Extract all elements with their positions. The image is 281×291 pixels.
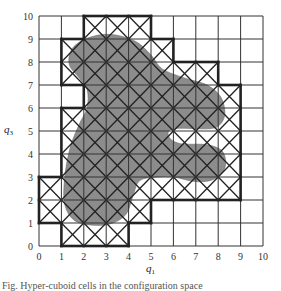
x-tick-label: 5 <box>149 251 154 262</box>
y-axis-label: q3 <box>4 123 14 137</box>
y-tick-label: 10 <box>23 11 33 22</box>
y-tick-label: 9 <box>28 34 33 45</box>
y-tick-label: 4 <box>28 149 33 160</box>
y-tick-label: 5 <box>28 126 33 137</box>
y-tick-label: 8 <box>28 57 33 68</box>
x-tick-label: 2 <box>81 251 86 262</box>
x-axis-ticks: 012345678910 <box>37 251 269 262</box>
y-tick-label: 3 <box>28 172 33 183</box>
x-tick-label: 3 <box>104 251 109 262</box>
x-tick-label: 4 <box>126 251 131 262</box>
x-tick-label: 1 <box>59 251 64 262</box>
x-tick-label: 6 <box>171 251 176 262</box>
y-tick-label: 7 <box>28 80 33 91</box>
x-tick-label: 7 <box>193 251 198 262</box>
y-tick-label: 2 <box>28 195 33 206</box>
x-tick-label: 10 <box>258 251 268 262</box>
y-axis-ticks: 012345678910 <box>23 11 33 252</box>
x-tick-label: 0 <box>37 251 42 262</box>
y-tick-label: 0 <box>28 241 33 252</box>
figure-caption: Fig. Hyper-cuboid cells in the configura… <box>2 280 203 291</box>
x-axis-label: q1 <box>146 262 156 276</box>
x-tick-label: 8 <box>216 251 221 262</box>
y-tick-label: 1 <box>28 218 33 229</box>
x-tick-label: 9 <box>238 251 243 262</box>
y-tick-label: 6 <box>28 103 33 114</box>
